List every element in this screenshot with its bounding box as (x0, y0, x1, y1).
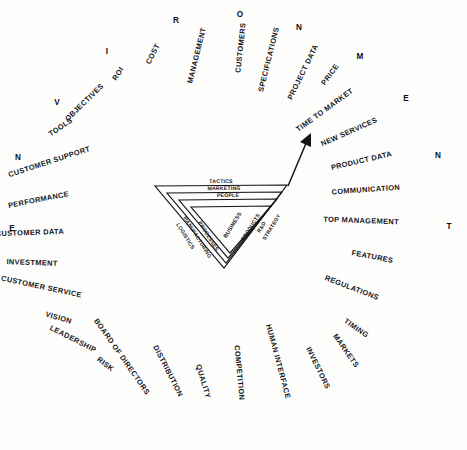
environment-letter-2: V (54, 98, 60, 107)
ring-label-customer-service: CUSTOMER SERVICE (0, 274, 82, 300)
ring-label-investors: INVESTORS (304, 345, 332, 390)
ring-label-price: PRICE (319, 62, 341, 87)
diagram-canvas: ENVIRONMENT ROICOSTMANAGEMENTCUSTOMERSSP… (0, 0, 467, 450)
ring-label-specifications: SPECIFICATIONS (256, 26, 281, 93)
arrow-shaft (288, 141, 307, 186)
environment-letter-10: T (446, 222, 451, 231)
ring-label-customer-data: CUSTOMER DATA (0, 227, 64, 238)
environment-letter-8: E (403, 94, 409, 103)
triangle-label-people: PEOPLE (217, 192, 240, 198)
ring-label-communication: COMMUNICATION (331, 183, 400, 197)
ring-label-new-services: NEW SERVICES (319, 115, 378, 148)
environment-letter-5: O (237, 10, 244, 19)
ring-label-regulations: REGULATIONS (324, 273, 381, 302)
ring-label-investment: INVESTMENT (6, 257, 58, 268)
ring-label-human-interface: HUMAN INTERFACE (264, 323, 293, 399)
ring-label-markets: MARKETS (331, 332, 361, 369)
environment-letter-6: N (296, 23, 302, 32)
ring-label-objectives: OBJECTIVES (63, 81, 105, 122)
ring-labels-group: ROICOSTMANAGEMENTCUSTOMERSSPECIFICATIONS… (0, 22, 400, 400)
ring-label-cost: COST (144, 42, 162, 66)
triangle-labels-group: TACTICS MARKETING PEOPLE STRATEGY R&D PR… (175, 178, 282, 259)
ring-label-management: MANAGEMENT (185, 26, 208, 84)
radial-environment-diagram: ENVIRONMENT ROICOSTMANAGEMENTCUSTOMERSSP… (0, 0, 467, 450)
triangle-label-marketing: MARKETING (207, 185, 240, 191)
environment-letter-9: N (435, 151, 441, 160)
ring-label-performance: PERFORMANCE (7, 189, 69, 210)
triangle-label-business: BUSINESS (222, 211, 243, 239)
triangle-label-tactics: TACTICS (209, 178, 233, 184)
ring-label-roi: ROI (110, 65, 125, 82)
ring-label-distribution: DISTRIBUTION (151, 344, 185, 399)
ring-label-quality: QUALITY (194, 363, 213, 399)
ring-label-risk: RISK (95, 355, 116, 374)
ring-label-customers: CUSTOMERS (233, 22, 247, 73)
ring-label-project-data: PROJECT DATA (285, 42, 320, 101)
ring-label-features: FEATURES (351, 248, 394, 265)
ring-label-leadership: LEADERSHIP (48, 323, 98, 354)
ring-label-competition: COMPETITION (233, 345, 247, 401)
environment-letter-3: I (106, 47, 108, 56)
environment-letter-4: R (173, 16, 179, 25)
ring-label-product-data: PRODUCT DATA (330, 149, 393, 172)
ring-label-top-management: TOP MANAGEMENT (323, 215, 399, 227)
ring-label-time-to-market: TIME TO MARKET (294, 86, 355, 134)
ring-label-timing: TIMING (342, 316, 370, 339)
environment-letter-7: M (357, 52, 364, 61)
growth-arrow (288, 133, 311, 186)
ring-label-vision: VISION (44, 310, 73, 326)
environment-letter-1: N (15, 153, 21, 162)
